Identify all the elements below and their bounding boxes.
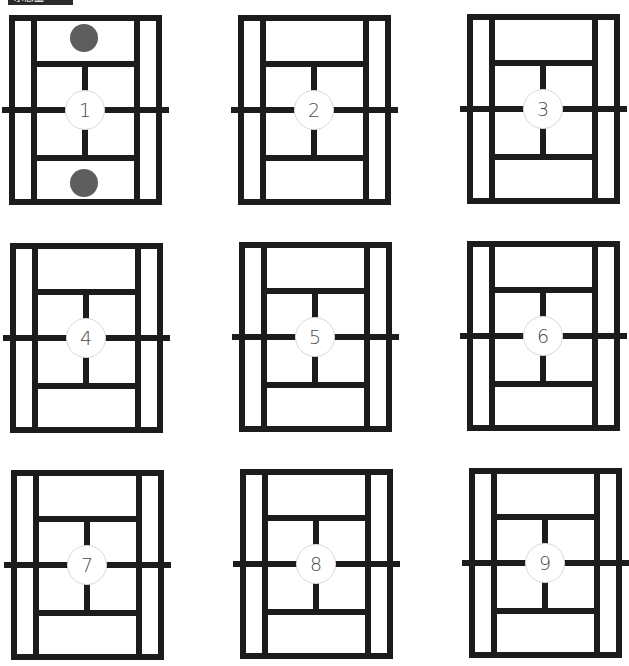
tennis-court-1: 1 xyxy=(9,15,162,205)
court-number-badge: 5 xyxy=(295,317,335,357)
tennis-court-5: 5 xyxy=(239,242,392,432)
court-number-badge: 3 xyxy=(523,89,563,129)
court-number-badge: 7 xyxy=(67,545,107,585)
court-number-badge: 9 xyxy=(525,543,565,583)
tennis-court-7: 7 xyxy=(11,470,164,660)
diagram-label: 示意圖 xyxy=(8,0,73,5)
tennis-court-6: 6 xyxy=(467,241,620,431)
court-number-badge: 8 xyxy=(296,544,336,584)
tennis-court-2: 2 xyxy=(238,15,391,205)
ball-top-icon xyxy=(70,24,98,52)
tennis-court-9: 9 xyxy=(469,468,622,658)
tennis-court-4: 4 xyxy=(10,243,163,433)
tennis-court-3: 3 xyxy=(467,14,620,204)
court-number-badge: 2 xyxy=(294,90,334,130)
court-number-badge: 1 xyxy=(65,90,105,130)
tennis-court-8: 8 xyxy=(240,469,393,659)
court-number-badge: 6 xyxy=(523,316,563,356)
court-number-badge: 4 xyxy=(66,318,106,358)
ball-bottom-icon xyxy=(70,169,98,197)
